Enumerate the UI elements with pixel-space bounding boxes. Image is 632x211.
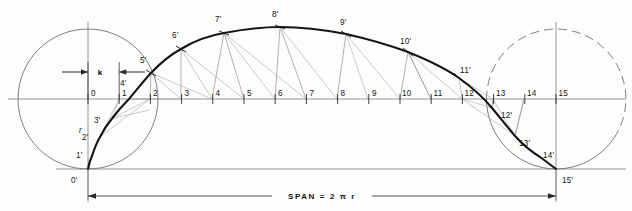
tick-label-1: 1 <box>122 89 127 98</box>
span-dimension-group: SPAN = 2 π r <box>88 169 556 202</box>
curve-point-label-0: 0' <box>71 176 78 185</box>
tick-label-6: 6 <box>278 89 283 98</box>
curve-point-label-13: 13' <box>519 139 531 148</box>
cycloid-diagram: 0 1 2 3 4 5 6 7 8 9 10 11 12 13 14 15 <box>0 0 632 211</box>
curve-point-label-2: 2' <box>82 133 89 142</box>
construction-line <box>224 33 306 99</box>
curve-point-label-12: 12' <box>501 111 513 120</box>
curve-point-label-14: 14' <box>543 151 555 160</box>
k-dimension-label: k <box>98 68 103 77</box>
curve-point-label-5: 5' <box>140 56 147 65</box>
radial-spoke <box>515 99 524 136</box>
curve-point-label-1: 1' <box>76 151 83 160</box>
curve-point-label-7: 7' <box>215 15 222 24</box>
curve-point-label-3: 3' <box>94 116 101 125</box>
tick-label-15: 15 <box>559 89 569 98</box>
tick-label-0: 0 <box>91 89 96 98</box>
curve-point-label-15: 15' <box>562 176 574 185</box>
construction-lines-group <box>100 27 524 137</box>
tick-label-12: 12 <box>465 89 475 98</box>
curve-point-label-11: 11' <box>460 66 471 75</box>
construction-line <box>346 34 368 99</box>
tick-label-14: 14 <box>527 89 537 98</box>
radius-label-group: r <box>79 126 82 135</box>
curve-point-marker <box>403 48 413 56</box>
k-arrow-left-head <box>81 69 88 75</box>
construction-line <box>280 27 337 99</box>
cycloid-drawing-canvas: 0 1 2 3 4 5 6 7 8 9 10 11 12 13 14 15 <box>0 0 632 211</box>
tick-label-4: 4 <box>216 89 221 98</box>
curve-point-label-10: 10' <box>400 37 412 46</box>
construction-line <box>181 49 244 99</box>
tick-label-11: 11 <box>434 89 443 98</box>
curve-point-markers-group <box>146 25 464 83</box>
curve-point-label-4: 4' <box>120 79 127 88</box>
tick-label-9: 9 <box>372 89 377 98</box>
span-label: SPAN = 2 π r <box>288 192 356 201</box>
construction-line <box>100 99 150 137</box>
radial-spoke <box>224 33 244 99</box>
tick-labels-group: 0 1 2 3 4 5 6 7 8 9 10 11 12 13 14 15 <box>91 89 568 98</box>
axis-lines-group <box>8 22 626 200</box>
radial-spokes-group <box>150 27 524 136</box>
tick-label-5: 5 <box>247 89 252 98</box>
curve-point-label-8: 8' <box>272 10 279 19</box>
tick-label-2: 2 <box>153 89 158 98</box>
tick-label-3: 3 <box>185 89 190 98</box>
span-arrowhead-right <box>548 193 556 199</box>
curve-point-label-9: 9' <box>340 18 347 27</box>
curve-point-label-6: 6' <box>172 31 179 40</box>
k-arrow-right-head <box>119 69 126 75</box>
tick-label-8: 8 <box>341 89 346 98</box>
radius-label: r <box>79 126 82 135</box>
tick-label-7: 7 <box>310 89 315 98</box>
span-arrowhead-left <box>88 193 96 199</box>
tick-label-10: 10 <box>402 89 412 98</box>
tick-label-13: 13 <box>496 89 506 98</box>
